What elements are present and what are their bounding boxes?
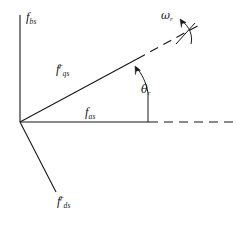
rotor-speed-label: ωr	[161, 6, 173, 22]
b-axis-label: fbs	[26, 8, 37, 24]
rotor-angle-label-sub: r	[148, 89, 151, 97]
d-axis-label-sup: r	[60, 194, 63, 203]
rotor-angle-label: θr	[141, 80, 151, 96]
a-axis-label: fas	[85, 103, 96, 119]
q-axis-label: frqs	[56, 60, 70, 76]
phasor-diagram-figure: fbs frqs fas frds θr ωr	[0, 0, 237, 226]
q-axis-label-sup: r	[59, 62, 62, 71]
q-axis-label-sub: qs	[63, 69, 70, 78]
d-axis-label: frds	[57, 192, 71, 208]
theta-arrowhead-icon	[135, 66, 140, 75]
a-axis-label-sub: as	[88, 112, 95, 121]
d-axis-line	[20, 122, 56, 192]
q-axis-line	[20, 59, 137, 122]
rotor-angle-label-base: θ	[141, 83, 148, 96]
b-axis-label-sub: bs	[29, 17, 36, 26]
d-axis-label-sub: ds	[64, 201, 71, 210]
omega-cross-tick	[176, 23, 195, 44]
rotor-speed-label-sub: r	[170, 15, 173, 23]
rotor-speed-label-base: ω	[161, 9, 170, 22]
diagram-canvas	[0, 0, 237, 226]
